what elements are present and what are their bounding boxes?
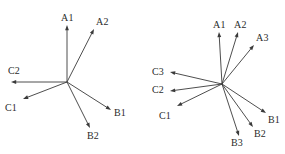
vector-shaft (219, 36, 222, 84)
vector-shaft (222, 84, 263, 111)
vector-label-B1: B1 (114, 107, 126, 118)
vector-shaft (222, 84, 251, 124)
vector-label-A2: A2 (96, 16, 109, 27)
arrowhead-icon (248, 122, 253, 127)
vector-left-panel-A2: A2 (67, 16, 109, 82)
arrowhead-icon (90, 29, 94, 34)
vector-shaft (222, 48, 251, 84)
arrowhead-icon (86, 122, 90, 128)
arrowhead-icon (170, 71, 175, 75)
vector-label-A3: A3 (256, 32, 269, 43)
vector-shaft (67, 33, 92, 82)
vector-right-panel-A3: A3 (222, 32, 269, 84)
vector-label-A1: A1 (61, 12, 74, 23)
arrowhead-icon (170, 88, 175, 92)
vector-label-C2: C2 (8, 65, 20, 76)
vector-shaft (27, 82, 67, 98)
arrowhead-icon (217, 32, 221, 37)
vector-left-panel-C1: C1 (5, 82, 67, 113)
vector-left-panel-A1: A1 (61, 12, 74, 82)
vector-shaft (222, 84, 238, 132)
left-panel: A1A2C2C1B1B2 (5, 12, 126, 141)
arrowhead-icon (235, 32, 239, 38)
vector-right-panel-B1: B1 (222, 84, 280, 125)
vector-shaft (174, 73, 222, 84)
arrowhead-icon (11, 80, 16, 84)
vector-label-A1: A1 (213, 19, 226, 30)
arrowhead-icon (261, 109, 266, 113)
vector-diagram-figure: A1A2C2C1B1B2A1A2A3C3C2C1B1B2B3 (0, 0, 285, 154)
arrowhead-icon (23, 95, 29, 99)
vector-label-C1: C1 (5, 102, 17, 113)
vector-label-B3: B3 (231, 137, 243, 148)
vector-label-C1: C1 (159, 110, 171, 121)
vector-label-A2: A2 (234, 19, 247, 30)
panels-group: A1A2C2C1B1B2A1A2A3C3C2C1B1B2B3 (5, 12, 280, 148)
vector-right-panel-C3: C3 (152, 66, 222, 84)
vector-label-C2: C2 (152, 84, 164, 95)
vector-shaft (222, 36, 237, 84)
vector-label-B1: B1 (268, 114, 280, 125)
vector-left-panel-B2: B2 (67, 82, 99, 141)
arrowhead-icon (65, 25, 69, 30)
vector-label-C3: C3 (152, 66, 164, 77)
vector-label-B2: B2 (87, 130, 99, 141)
right-panel: A1A2A3C3C2C1B1B2B3 (152, 19, 280, 148)
vector-right-panel-B2: B2 (222, 84, 266, 139)
arrowhead-icon (106, 106, 111, 110)
arrowhead-icon (177, 102, 183, 106)
vector-diagram-canvas: A1A2C2C1B1B2A1A2A3C3C2C1B1B2B3 (0, 0, 285, 154)
vector-right-panel-A2: A2 (222, 19, 247, 84)
vector-left-panel-C2: C2 (8, 65, 67, 84)
vector-label-B2: B2 (254, 128, 266, 139)
vector-right-panel-C1: C1 (159, 84, 222, 121)
arrowhead-icon (236, 130, 240, 136)
vector-right-panel-B3: B3 (222, 84, 243, 148)
vector-right-panel-A1: A1 (213, 19, 226, 84)
